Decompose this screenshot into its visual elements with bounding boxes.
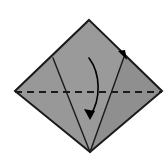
- origami-diagram-container: [0, 0, 168, 163]
- origami-figure-svg: [0, 0, 168, 163]
